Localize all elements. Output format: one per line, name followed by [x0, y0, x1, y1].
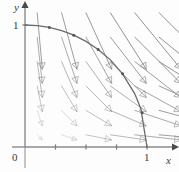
plot-canvas [0, 0, 179, 172]
direction-field-figure: y x 1 1 0 [0, 0, 179, 172]
origin-label: 0 [12, 152, 18, 163]
x-tick-label-1: 1 [144, 152, 150, 163]
y-tick-label-1: 1 [13, 20, 19, 31]
x-axis-label: x [166, 155, 171, 166]
y-axis-label: y [14, 2, 19, 13]
vector-field-arrows [37, 13, 179, 143]
